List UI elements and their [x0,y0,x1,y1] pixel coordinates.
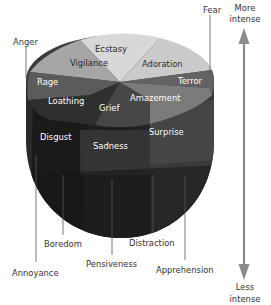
label-rage: Rage [37,77,58,87]
label-disgust: Disgust [40,132,72,142]
up-arrow-icon [239,28,250,44]
label-more: More [235,3,256,13]
label-boredom: Boredom [44,239,82,249]
intensity-axis [239,28,250,280]
label-pensiveness: Pensiveness [86,259,137,269]
label-adoration: Adoration [142,59,183,69]
label-ecstasy: Ecstasy [95,44,127,54]
label-more-intense: intense [230,14,261,24]
label-less-intense: intense [230,294,261,304]
label-anger: Anger [13,37,39,47]
label-vigilance: Vigilance [70,58,108,68]
emotion-cone-diagram: Vigilance Ecstasy Adoration Terror Rage … [0,0,271,305]
label-surprise: Surprise [149,127,184,137]
label-apprehension: Apprehension [156,265,214,275]
down-arrow-icon [239,264,250,280]
label-amazement: Amazement [130,93,181,103]
label-terror: Terror [177,76,203,86]
label-fear: Fear [203,5,222,15]
label-less: Less [236,282,254,292]
label-loathing: Loathing [48,96,84,106]
label-sadness: Sadness [93,141,128,151]
label-annoyance: Annoyance [12,268,59,278]
label-distraction: Distraction [129,238,175,248]
label-grief: Grief [99,103,120,113]
